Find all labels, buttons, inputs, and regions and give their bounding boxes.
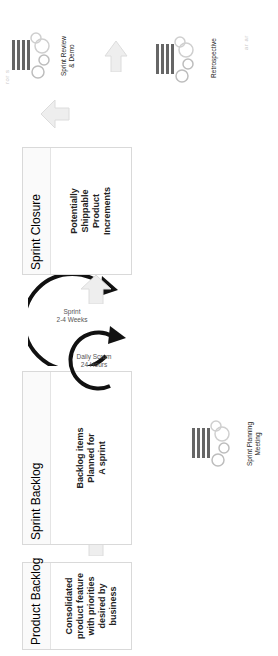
- product-backlog-box: Product Backlog Consolidated product fea…: [22, 562, 132, 650]
- sprint-review-label: Sprint Review & Demo: [60, 28, 76, 84]
- arrow-right-icon: [80, 274, 112, 304]
- product-backlog-header: Product Backlog: [23, 563, 51, 649]
- arrow-up-icon: [40, 99, 70, 129]
- sprint-planning-label: Sprint Planning Meeting: [246, 412, 262, 476]
- daily-scrum-label: Daily Scrum 24 Hours: [64, 353, 124, 369]
- sprint-planning-team-icon: [188, 418, 232, 470]
- sprint-backlog-description: Backlog items Planned for A sprint: [51, 372, 131, 544]
- retrospective-label: Retrospective: [210, 30, 218, 86]
- sprint-review-team-icon: [8, 30, 52, 82]
- retrospective-team-icon: [152, 34, 196, 86]
- sprint-backlog-header: Sprint Backlog: [23, 372, 51, 544]
- faint-mark-2: ar ar: [243, 35, 249, 50]
- arrow-right-icon: [104, 40, 128, 72]
- sprint-closure-box: Sprint Closure Potentially Shippable Pro…: [22, 147, 132, 275]
- sprint-backlog-box: Sprint Backlog Backlog items Planned for…: [22, 371, 132, 545]
- sprint-duration-label: Sprint 2-4 Weeks: [42, 308, 102, 324]
- sprint-closure-description: Potentially Shippable Product Increments: [51, 148, 131, 274]
- sprint-closure-header: Sprint Closure: [23, 148, 51, 274]
- scrum-diagram: ror s ar ar Product Backlog Consolidated…: [0, 0, 278, 656]
- product-backlog-description: Consolidated product feature with priori…: [51, 563, 131, 649]
